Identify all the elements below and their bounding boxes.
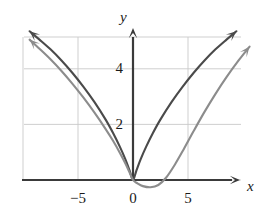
x-axis-label: x [246, 178, 254, 194]
x-tick-label--5: −5 [70, 190, 86, 206]
y-axis-label: y [118, 9, 127, 25]
y-tick-label-2: 2 [116, 116, 124, 132]
coordinate-plane: −50524 x y [0, 0, 264, 218]
x-tick-label-5: 5 [184, 190, 192, 206]
graph-figure: −50524 x y [0, 0, 264, 218]
x-tick-label-0: 0 [129, 190, 137, 206]
y-tick-label-4: 4 [116, 60, 124, 76]
